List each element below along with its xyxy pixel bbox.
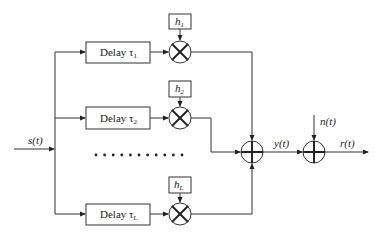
svg-text:Delay τ1: Delay τ1 [100, 46, 137, 60]
output-label: r(t) [340, 137, 355, 150]
ellipsis-dots [95, 154, 184, 157]
svg-text:Delay τL: Delay τL [100, 208, 138, 222]
branch-L: Delay τL hL [55, 164, 252, 225]
input-label: s(t) [28, 134, 43, 147]
multiplier-icon [169, 41, 191, 63]
noise-label: n(t) [320, 115, 336, 128]
summing-junction-icon [303, 141, 325, 163]
summing-junction-icon [241, 141, 263, 163]
branch-2: Delay τ2 h2 [55, 81, 240, 152]
svg-text:Delay τ2: Delay τ2 [100, 112, 137, 126]
sum-output-label: y(t) [273, 137, 290, 150]
input-signal: s(t) [14, 134, 54, 149]
branch-1: Delay τ1 h1 [55, 14, 252, 140]
multipath-channel-diagram: s(t) Delay τ1 h1 Delay τ2 h2 [0, 0, 377, 239]
multiplier-icon [169, 203, 191, 225]
multiplier-icon [169, 107, 191, 129]
